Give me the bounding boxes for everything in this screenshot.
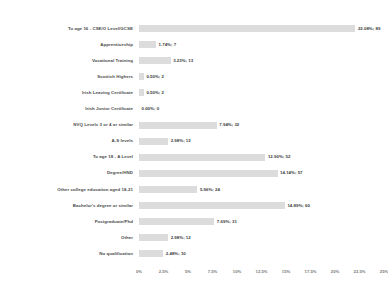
x-axis-tick-label: 20% (331, 268, 339, 275)
bar-value-label: 12.90%; 52 (265, 153, 290, 161)
bar-track: 2.98%; 12 (139, 138, 384, 145)
x-axis: 0%2.5%5%7.5%10%12.5%15%17.5%20%22.5%25% (139, 268, 384, 280)
bar[interactable] (139, 234, 168, 241)
bar-track: 14.14%; 57 (139, 170, 384, 177)
category-label: Other (0, 235, 136, 241)
chart-row: To age 18 - A Level12.90%; 52 (0, 152, 387, 163)
category-label: Apprenticeship (0, 42, 136, 48)
chart-row: No qualification2.48%; 10 (0, 248, 387, 259)
bar[interactable] (139, 41, 156, 48)
bar[interactable] (139, 170, 278, 177)
x-axis-tick-label: 0% (136, 268, 142, 275)
x-axis-tick-label: 7.5% (208, 268, 218, 275)
bar-value-label: 0.50%; 2 (144, 89, 164, 97)
chart-row: Other2.98%; 12 (0, 232, 387, 243)
bar[interactable] (139, 154, 265, 161)
bar-value-label: 3.23%; 13 (171, 57, 194, 65)
x-axis-tick-label: 12.5% (256, 268, 268, 275)
chart-row: Degree/HND14.14%; 57 (0, 168, 387, 179)
bar-value-label: 5.96%; 24 (197, 186, 220, 194)
chart-row: A-S levels2.98%; 12 (0, 136, 387, 147)
x-axis-tick-label: 10% (233, 268, 241, 275)
category-label: NVQ Levels 3 or 4 or similar (0, 122, 136, 128)
category-label: No qualification (0, 251, 136, 257)
bar-track: 0.00%; 0 (139, 106, 384, 113)
bar-track: 22.08%; 89 (139, 25, 384, 32)
bar[interactable] (139, 250, 163, 257)
bar-value-label: 2.48%; 10 (163, 250, 186, 258)
chart-row: Bachelor's degree or similar14.89%; 60 (0, 200, 387, 211)
bar[interactable] (139, 218, 214, 225)
bar-track: 12.90%; 52 (139, 154, 384, 161)
category-label: To age 18 - A Level (0, 154, 136, 160)
x-axis-tick-label: 17.5% (305, 268, 317, 275)
bar-value-label: 14.89%; 60 (285, 202, 310, 210)
category-label: Irish Junior Certificate (0, 106, 136, 112)
x-axis-tick-label: 2.5% (159, 268, 169, 275)
chart-row: Vocational Training3.23%; 13 (0, 55, 387, 66)
category-label: Other college education aged 18-21 (0, 187, 136, 193)
bar-value-label: 2.98%; 12 (168, 137, 191, 145)
bar-track: 5.96%; 24 (139, 186, 384, 193)
bar-value-label: 7.69%; 31 (214, 218, 237, 226)
bar[interactable] (139, 57, 171, 64)
bar-track: 2.98%; 12 (139, 234, 384, 241)
bar-track: 1.74%; 7 (139, 41, 384, 48)
bar-value-label: 22.08%; 89 (355, 25, 380, 33)
chart-row: NVQ Levels 3 or 4 or similar7.94%; 32 (0, 120, 387, 131)
bar-track: 7.69%; 31 (139, 218, 384, 225)
bar-value-label: 0.50%; 2 (144, 73, 164, 81)
bar[interactable] (139, 25, 355, 32)
bar-track: 14.89%; 60 (139, 202, 384, 209)
bar[interactable] (139, 122, 217, 129)
bar[interactable] (139, 202, 285, 209)
bar-value-label: 14.14%; 57 (278, 169, 303, 177)
chart-row: Apprenticeship1.74%; 7 (0, 39, 387, 50)
bar-track: 0.50%; 2 (139, 73, 384, 80)
category-label: A-S levels (0, 138, 136, 144)
category-label: Degree/HND (0, 170, 136, 176)
chart-row: Scottish Highers0.50%; 2 (0, 71, 387, 82)
bar-value-label: 1.74%; 7 (156, 41, 176, 49)
bar-value-label: 0.00%; 0 (139, 105, 159, 113)
chart-row: Irish Junior Certificate0.00%; 0 (0, 104, 387, 115)
bar-track: 2.48%; 10 (139, 250, 384, 257)
category-label: Vocational Training (0, 58, 136, 64)
x-axis-tick-label: 25% (380, 268, 388, 275)
x-axis-tick-label: 5% (185, 268, 191, 275)
category-label: Irish Leaving Certificate (0, 90, 136, 96)
bar-track: 7.94%; 32 (139, 122, 384, 129)
bar-track: 0.50%; 2 (139, 89, 384, 96)
x-axis-tick-label: 22.5% (354, 268, 366, 275)
bar-track: 3.23%; 13 (139, 57, 384, 64)
category-label: To age 16 - CSE/O Level/GCSE (0, 26, 136, 32)
chart-row: Postgraduate/Phd7.69%; 31 (0, 216, 387, 227)
chart-row: Irish Leaving Certificate0.50%; 2 (0, 87, 387, 98)
category-label: Bachelor's degree or similar (0, 203, 136, 209)
bar-value-label: 2.98%; 12 (168, 234, 191, 242)
bar[interactable] (139, 138, 168, 145)
category-label: Postgraduate/Phd (0, 219, 136, 225)
bar-value-label: 7.94%; 32 (217, 121, 240, 129)
bar[interactable] (139, 186, 197, 193)
chart-row: Other college education aged 18-215.96%;… (0, 184, 387, 195)
category-label: Scottish Highers (0, 74, 136, 80)
chart-row: To age 16 - CSE/O Level/GCSE22.08%; 89 (0, 23, 387, 34)
x-axis-tick-label: 15% (282, 268, 290, 275)
